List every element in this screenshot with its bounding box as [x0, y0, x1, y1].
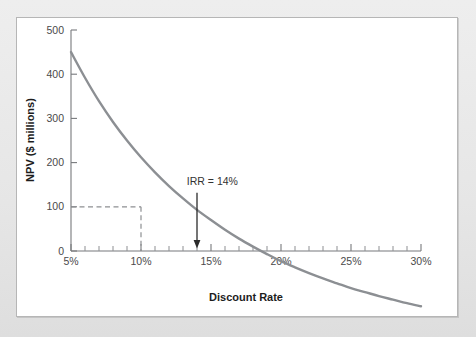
- chart-panel: 0100200300400500 5%10%15%20%25%30% IRR =…: [16, 17, 458, 317]
- x-tick-label-5: 5%: [63, 255, 78, 267]
- y-tick-label-300: 300: [46, 112, 64, 124]
- guide-lines: [71, 207, 141, 251]
- irr-annotation: IRR = 14%: [187, 175, 238, 249]
- x-tick-label-10: 10%: [130, 255, 151, 267]
- y-axis-title: NPV ($ millions): [24, 98, 36, 182]
- y-tick-label-100: 100: [46, 200, 64, 212]
- x-axis-major-ticks: 5%10%15%20%25%30%: [63, 244, 431, 267]
- y-tick-label-500: 500: [46, 24, 64, 36]
- irr-arrow-head: [194, 240, 201, 249]
- irr-label-text: IRR = 14%: [187, 175, 238, 187]
- figure-root: 0100200300400500 5%10%15%20%25%30% IRR =…: [0, 0, 476, 337]
- x-axis-minor-ticks: [85, 246, 407, 251]
- x-tick-label-30: 30%: [410, 255, 431, 267]
- x-axis-title: Discount Rate: [209, 291, 283, 303]
- axes: [71, 30, 421, 251]
- x-tick-label-15: 15%: [200, 255, 221, 267]
- y-axis-ticks: 0100200300400500: [46, 24, 77, 257]
- y-tick-label-400: 400: [46, 68, 64, 80]
- x-tick-label-25: 25%: [340, 255, 361, 267]
- npv-profile-chart: 0100200300400500 5%10%15%20%25%30% IRR =…: [17, 18, 457, 316]
- npv-profile-curve: [71, 52, 421, 306]
- y-tick-label-200: 200: [46, 156, 64, 168]
